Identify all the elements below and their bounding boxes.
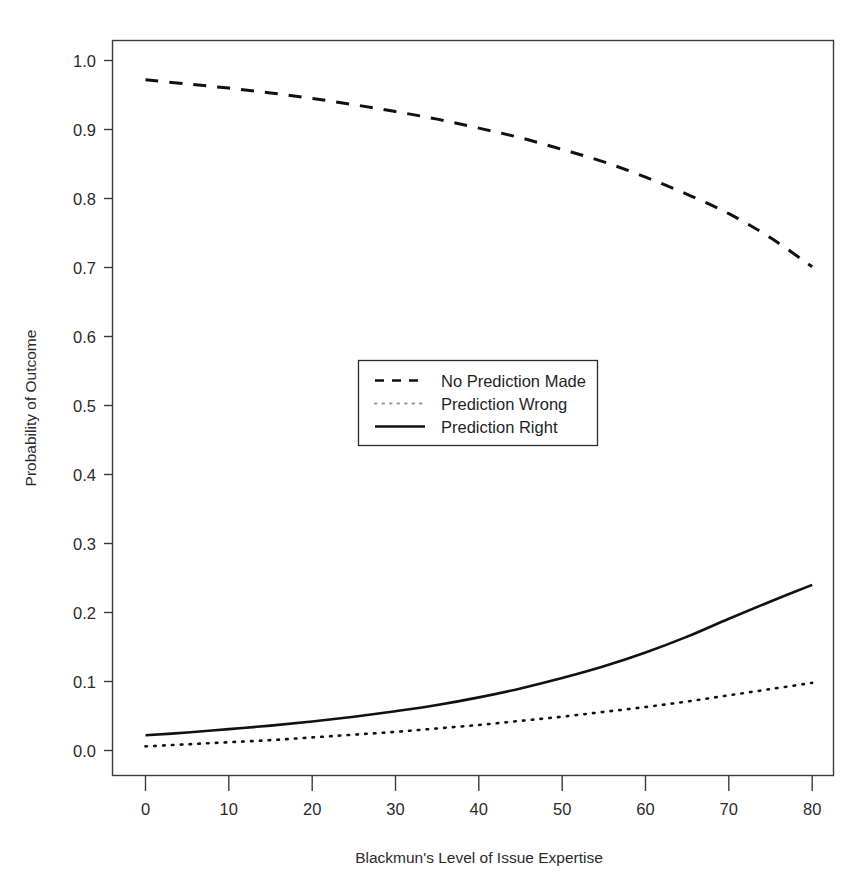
y-tick-label-0-1: 0.1 (73, 673, 96, 691)
x-tick-label-70: 70 (720, 800, 738, 818)
y-tick-label-0-9: 0.9 (73, 121, 96, 139)
y-axis-title: Probability of Outcome (22, 330, 39, 487)
x-tick-label-50: 50 (553, 800, 571, 818)
y-tick-label-0-2: 0.2 (73, 604, 96, 622)
y-tick-label-0-7: 0.7 (73, 259, 96, 277)
y-tick-label-0-8: 0.8 (73, 190, 96, 208)
y-tick-label-1-0: 1.0 (73, 52, 96, 70)
x-tick-label-30: 30 (386, 800, 404, 818)
legend-label-prediction-wrong: Prediction Wrong (441, 395, 567, 413)
legend-label-no-prediction-made: No Prediction Made (441, 372, 586, 390)
x-tick-label-20: 20 (303, 800, 321, 818)
x-tick-label-10: 10 (220, 800, 238, 818)
chart-figure: 1.0 0.9 0.8 0.7 0.6 0.5 0.4 0.3 0.2 0.1 … (0, 0, 865, 889)
x-tick-label-40: 40 (470, 800, 488, 818)
x-tick-label-60: 60 (636, 800, 654, 818)
x-axis-title: Blackmun's Level of Issue Expertise (355, 849, 603, 866)
y-tick-label-0-3: 0.3 (73, 535, 96, 553)
legend: No Prediction Made Prediction Wrong Pred… (359, 361, 598, 446)
legend-label-prediction-right: Prediction Right (441, 418, 558, 436)
y-tick-label-0-0: 0.0 (73, 742, 96, 760)
x-tick-label-0: 0 (141, 800, 150, 818)
y-tick-label-0-4: 0.4 (73, 466, 96, 484)
y-tick-label-0-5: 0.5 (73, 397, 96, 415)
y-tick-label-0-6: 0.6 (73, 328, 96, 346)
x-tick-label-80: 80 (803, 800, 821, 818)
probability-of-outcome-line-chart: 1.0 0.9 0.8 0.7 0.6 0.5 0.4 0.3 0.2 0.1 … (0, 0, 865, 889)
